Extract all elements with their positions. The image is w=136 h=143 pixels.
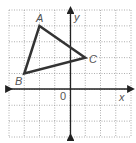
- coordinate-plane: x y 0 A B C: [0, 0, 136, 143]
- origin-label: 0: [60, 90, 66, 102]
- vertex-label-a: A: [35, 12, 43, 24]
- y-axis-label: y: [73, 11, 81, 23]
- vertex-label-c: C: [89, 53, 97, 65]
- x-axis-label: x: [118, 91, 125, 103]
- vertex-label-b: B: [15, 75, 22, 87]
